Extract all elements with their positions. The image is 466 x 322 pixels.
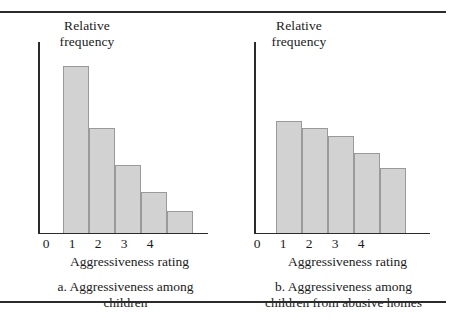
x-tick-a-3: 3 (111, 236, 137, 251)
x-axis-label-a: Aggressiveness rating (22, 254, 237, 269)
bar-a-2 (115, 165, 141, 233)
caption-b-line1: b. Aggressiveness among (236, 279, 451, 295)
x-tick-labels-a: 0 1 2 3 4 (33, 236, 163, 251)
y-axis-line-b (254, 42, 256, 234)
caption-a: a. Aggressiveness among children (18, 279, 233, 311)
bar-a-3 (141, 192, 167, 233)
x-tick-a-1: 1 (59, 236, 85, 251)
chart-panel-b: Relative frequency 0 1 2 3 4 Aggressiven… (222, 18, 437, 303)
x-tick-b-3: 3 (322, 236, 348, 251)
x-tick-a-4: 4 (137, 236, 163, 251)
y-axis-label-a-line1: Relative (12, 18, 162, 34)
y-axis-label-b-line1: Relative (224, 18, 374, 34)
caption-a-line2: children (18, 295, 233, 311)
bar-group-a (63, 43, 193, 233)
top-divider-rule (0, 11, 446, 13)
caption-b: b. Aggressiveness among children from ab… (236, 279, 451, 311)
chart-panel-a: Relative frequency 0 1 2 3 4 Aggressiven… (8, 18, 223, 303)
bottom-divider-rule (0, 301, 446, 303)
x-axis-label-b: Aggressiveness rating (240, 254, 455, 269)
x-tick-labels-b: 0 1 2 3 4 (244, 236, 374, 251)
bar-group-b (276, 43, 406, 233)
x-tick-a-0: 0 (33, 236, 59, 251)
bar-a-4 (167, 211, 193, 233)
bar-b-0 (276, 121, 302, 233)
bar-b-4 (380, 168, 406, 233)
bar-a-0 (63, 66, 89, 233)
caption-b-line2: children from abusive homes (236, 295, 451, 311)
x-tick-a-2: 2 (85, 236, 111, 251)
bar-b-3 (354, 153, 380, 233)
plot-area-b (254, 42, 430, 234)
x-tick-b-1: 1 (270, 236, 296, 251)
x-tick-b-0: 0 (244, 236, 270, 251)
y-axis-line-a (38, 42, 40, 234)
bar-a-1 (89, 128, 115, 233)
x-axis-line-b (254, 233, 430, 235)
bar-b-1 (302, 128, 328, 233)
caption-a-line1: a. Aggressiveness among (18, 279, 233, 295)
plot-area-a (38, 42, 208, 234)
x-tick-b-4: 4 (348, 236, 374, 251)
bar-b-2 (328, 136, 354, 233)
x-tick-b-2: 2 (296, 236, 322, 251)
x-axis-line-a (38, 233, 208, 235)
